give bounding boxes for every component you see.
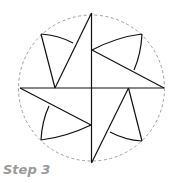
step-caption: Step 3: [3, 162, 50, 177]
star-diagram: [0, 0, 172, 183]
star-lines: [20, 13, 164, 163]
